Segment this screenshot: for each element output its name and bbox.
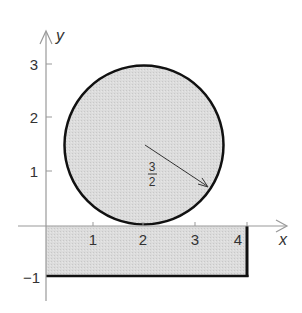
y-tick-1: 1: [30, 163, 38, 180]
x-axis-label: x: [278, 231, 288, 248]
y-tick-neg1: −1: [23, 269, 40, 286]
radius-denominator: 2: [149, 175, 156, 189]
coordinate-diagram: 3 2 y x 1 2 3 4 3 2 1 −1: [0, 0, 302, 313]
x-tick-3: 3: [191, 231, 199, 248]
x-tick-1: 1: [89, 231, 97, 248]
x-tick-2: 2: [139, 231, 147, 248]
y-axis-label: y: [55, 27, 65, 44]
y-tick-2: 2: [30, 109, 38, 126]
rectangle-region: [46, 226, 249, 277]
x-tick-4: 4: [234, 231, 242, 248]
radius-numerator: 3: [149, 160, 156, 174]
circle-region: [65, 66, 224, 225]
y-tick-3: 3: [30, 56, 38, 73]
